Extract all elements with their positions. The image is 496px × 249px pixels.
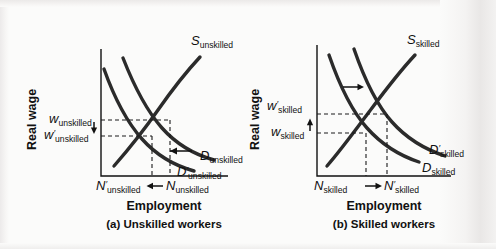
wage-change-arrow-up-b bbox=[307, 119, 313, 132]
panel-caption-a: (a) Unskilled workers bbox=[106, 218, 222, 230]
wage-label-initial-a: wunskilled bbox=[49, 111, 92, 128]
figure-page: Sunskilled Dunskilled D′unskilled wunski… bbox=[0, 0, 496, 249]
panel-unskilled-workers: Sunskilled Dunskilled D′unskilled wunski… bbox=[0, 0, 248, 249]
employment-label-initial-b: Nskilled bbox=[314, 178, 347, 195]
employment-change-arrow-left-a bbox=[147, 183, 164, 189]
supply-curve-label-a: Sunskilled bbox=[191, 33, 233, 50]
supply-curve-label-b: Sskilled bbox=[407, 32, 440, 49]
wage-label-after-a: w′unskilled bbox=[44, 127, 89, 144]
x-axis-title-b: Employment bbox=[346, 199, 422, 213]
employment-label-after-b: N′skilled bbox=[384, 178, 419, 195]
y-axis-title-a: Real wage bbox=[25, 89, 39, 150]
y-axis-title-b: Real wage bbox=[248, 89, 262, 150]
employment-label-after-a: N′unskilled bbox=[96, 178, 141, 195]
demand-curve-shifted-skilled bbox=[354, 49, 445, 156]
demand-curve-unskilled bbox=[123, 58, 214, 160]
panel-skilled-workers: Sskilled D′skilled Dskilled w′skilled ws… bbox=[237, 0, 485, 249]
demand-shifted-curve-label-a: D′unskilled bbox=[177, 164, 222, 181]
employment-change-arrow-right-b bbox=[365, 183, 382, 189]
x-axis-title-a: Employment bbox=[126, 199, 202, 213]
demand-curve-label-b: Dskilled bbox=[422, 160, 455, 177]
supply-curve-skilled bbox=[327, 55, 415, 166]
panel-caption-b: (b) Skilled workers bbox=[333, 218, 435, 230]
demand-shift-arrow-right-b bbox=[343, 84, 364, 91]
wage-label-initial-b: wskilled bbox=[271, 124, 304, 141]
demand-shifted-curve-label-b: D′skilled bbox=[429, 142, 464, 159]
wage-label-after-b: w′skilled bbox=[267, 98, 302, 115]
